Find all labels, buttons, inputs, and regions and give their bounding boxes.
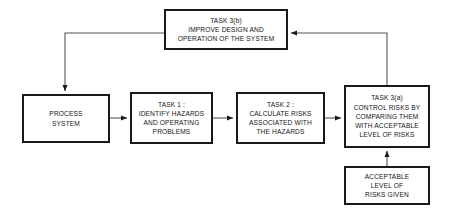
node-process-system-line-2: SYSTEM <box>52 119 80 128</box>
node-task-1-line-2: IDENTIFY HAZARDS <box>139 109 205 118</box>
node-task-3b-line-1: TASK 3(b) <box>210 16 242 25</box>
node-task-3a-line-4: WITH ACCEPTABLE <box>355 121 419 130</box>
node-acceptable-level-line-1: ACCEPTABLE <box>365 172 410 181</box>
node-task-1-line-4: PROBLEMS <box>153 127 191 136</box>
node-acceptable-level-line-3: RISKS GIVEN <box>365 190 409 199</box>
connector-task3b-to-process <box>65 33 164 91</box>
node-task-3a-line-2: CONTROL RISKS BY <box>354 103 421 112</box>
node-process-system-line-1: PROCESS <box>49 109 82 118</box>
node-task-2-line-3: ASSOCIATED WITH <box>249 118 312 127</box>
node-task-3a-line-5: LEVEL OF RISKS <box>360 130 415 139</box>
connector-task3a-to-task3b <box>291 33 387 85</box>
node-task-3b: TASK 3(b) IMPROVE DESIGN AND OPERATION O… <box>164 9 288 50</box>
node-task-1-line-1: TASK 1 : <box>158 100 185 109</box>
flowchart-diagram: TASK 3(b) IMPROVE DESIGN AND OPERATION O… <box>0 0 451 220</box>
node-task-1-line-3: AND OPERATING <box>143 118 199 127</box>
node-process-system: PROCESS SYSTEM <box>22 94 110 143</box>
node-task-2: TASK 2 : CALCULATE RISKS ASSOCIATED WITH… <box>236 92 325 144</box>
node-acceptable-level-line-2: LEVEL OF <box>371 181 403 190</box>
node-task-3a-line-3: COMPARING THEM <box>356 112 419 121</box>
node-acceptable-level-of-risks: ACCEPTABLE LEVEL OF RISKS GIVEN <box>344 166 430 205</box>
node-task-3a-line-1: TASK 3(a) <box>371 93 403 102</box>
node-task-1: TASK 1 : IDENTIFY HAZARDS AND OPERATING … <box>130 92 213 144</box>
node-task-2-line-1: TASK 2 : <box>267 100 294 109</box>
node-task-2-line-4: THE HAZARDS <box>256 127 304 136</box>
node-task-2-line-2: CALCULATE RISKS <box>249 109 311 118</box>
node-task-3a: TASK 3(a) CONTROL RISKS BY COMPARING THE… <box>344 85 430 148</box>
node-task-3b-line-3: OPERATION OF THE SYSTEM <box>178 34 275 43</box>
node-task-3b-line-2: IMPROVE DESIGN AND <box>188 25 264 34</box>
